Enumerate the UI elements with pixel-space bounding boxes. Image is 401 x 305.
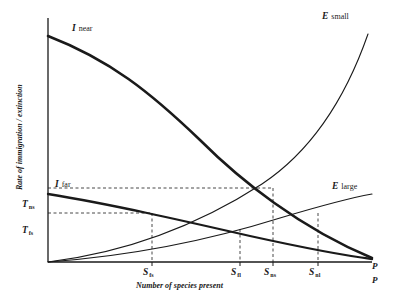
x-tick-snl-sub: nl <box>314 272 320 278</box>
curve-i-near <box>48 36 372 258</box>
y-tick-tns-var: T <box>22 199 28 209</box>
curve-label-e-small: Esmall <box>322 12 349 22</box>
x-tick-label-sfl: Sfl <box>231 268 241 278</box>
curve-label-e-large-sub: large <box>338 182 357 191</box>
x-tick-label-sns: Sns <box>264 268 276 278</box>
y-tick-tfs-sub: fs <box>28 230 33 236</box>
curve-i-far <box>48 194 372 259</box>
curve-label-e-small-sub: small <box>328 12 348 21</box>
x-tick-sfs-sub: fs <box>148 272 153 278</box>
y-tick-label-tns: Tns <box>22 200 34 210</box>
x-tick-sfl-sub: fl <box>236 272 241 278</box>
x-axis-title: Number of species present <box>136 282 223 290</box>
curve-label-i-far: Ifar <box>55 180 71 190</box>
curve-label-i-far-sub: far <box>59 180 71 189</box>
x-tick-label-sfs: Sfs <box>143 268 154 278</box>
x-tick-label-snl: Snl <box>309 268 320 278</box>
y-tick-tns-sub: ns <box>28 204 35 210</box>
x-tick-sns-sub: ns <box>269 272 276 278</box>
curve-label-e-large: Elarge <box>332 182 357 192</box>
y-tick-label-tfs: Tfs <box>22 226 33 236</box>
curve-label-i-near-sub: near <box>76 24 93 33</box>
plot-area <box>0 0 401 305</box>
y-tick-tfs-var: T <box>22 225 28 235</box>
p-label-upper: P <box>372 262 378 271</box>
y-axis-title: Rate of immigration / extinction <box>16 84 24 190</box>
p-label-lower: P <box>372 276 378 285</box>
curve-label-i-near: Inear <box>72 24 92 34</box>
figure-canvas: Inear Esmall Ifar Elarge Tns Tfs Sfs Sfl… <box>0 0 401 305</box>
